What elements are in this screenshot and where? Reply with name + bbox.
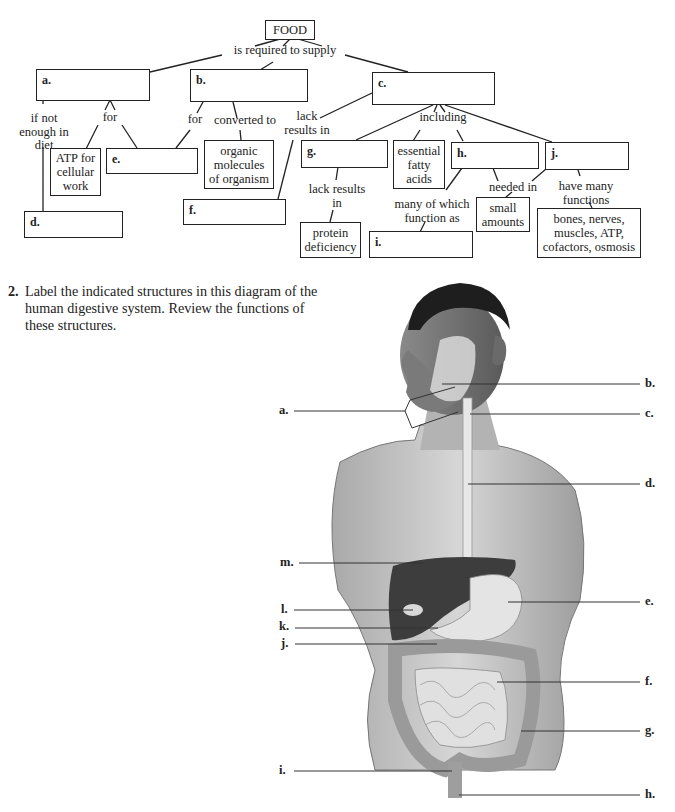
- anatomy-label-f: f.: [645, 674, 652, 689]
- anatomy-label-h: h.: [645, 787, 655, 802]
- anatomy-label-b: b.: [645, 376, 655, 391]
- anatomy-label-d: d.: [645, 476, 655, 491]
- anatomy-label-j: j.: [281, 636, 288, 651]
- anatomy-label-g: g.: [645, 723, 654, 738]
- anatomy-label-m: m.: [280, 555, 294, 570]
- anatomy-label-c: c.: [645, 406, 654, 421]
- anatomy-label-a: a.: [279, 403, 288, 418]
- anatomy-leader-lines: [0, 0, 675, 812]
- anatomy-label-e: e.: [645, 594, 654, 609]
- anatomy-label-i: i.: [279, 763, 286, 778]
- anatomy-label-l: l.: [281, 602, 288, 617]
- anatomy-label-k: k.: [279, 619, 289, 634]
